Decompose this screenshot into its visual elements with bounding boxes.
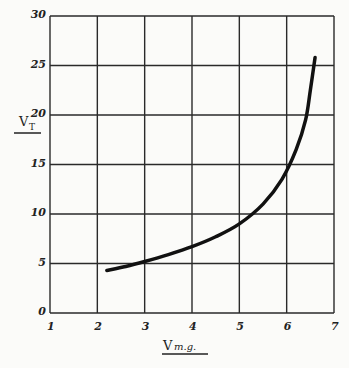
svg-text:2: 2 [93,320,102,333]
svg-text:6: 6 [284,320,292,333]
x-tick-labels: 1234567 [47,320,339,333]
svg-text:4: 4 [189,320,197,333]
y-tick-labels: 051015202530 [30,8,47,318]
svg-text:0: 0 [38,305,46,318]
svg-text:25: 25 [30,58,46,71]
svg-text:20: 20 [30,107,47,120]
svg-text:7: 7 [331,320,339,333]
svg-text:V: V [162,338,173,353]
svg-text:T: T [29,122,35,132]
svg-text:5: 5 [38,256,46,269]
x-axis-label: V m.g. [162,338,208,354]
svg-text:3: 3 [142,320,150,333]
svg-text:V: V [18,114,29,129]
svg-text:1: 1 [47,320,55,333]
svg-text:5: 5 [236,320,244,333]
svg-text:30: 30 [31,8,47,21]
svg-text:10: 10 [31,206,47,219]
svg-text:m.g.: m.g. [174,341,196,352]
chart: 051015202530 1234567 V T V m.g. [0,0,349,368]
svg-text:15: 15 [31,157,46,170]
